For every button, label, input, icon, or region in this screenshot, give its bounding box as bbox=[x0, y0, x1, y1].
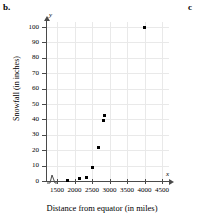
y-tick bbox=[42, 104, 47, 105]
gridline-horizontal bbox=[45, 58, 169, 59]
x-axis-arrow bbox=[169, 179, 174, 185]
y-axis-letter: y bbox=[49, 11, 52, 19]
x-tick bbox=[110, 179, 111, 184]
y-tick-label: 0 bbox=[17, 178, 39, 185]
x-tick bbox=[57, 179, 58, 184]
gridline-vertical bbox=[75, 22, 76, 182]
data-point bbox=[66, 179, 69, 182]
y-tick bbox=[42, 181, 47, 182]
gridline-horizontal bbox=[45, 89, 169, 90]
gridline-horizontal bbox=[45, 166, 169, 167]
gridline-horizontal bbox=[45, 135, 169, 136]
y-tick bbox=[42, 58, 47, 59]
data-point bbox=[103, 114, 106, 117]
y-axis-line bbox=[46, 20, 47, 182]
y-tick bbox=[42, 135, 47, 136]
y-tick bbox=[42, 150, 47, 151]
x-tick bbox=[145, 179, 146, 184]
x-tick bbox=[75, 179, 76, 184]
y-tick bbox=[42, 73, 47, 74]
x-tick bbox=[127, 179, 128, 184]
gridline-horizontal bbox=[45, 73, 169, 74]
y-tick bbox=[42, 166, 47, 167]
x-axis-letter: x bbox=[166, 170, 169, 178]
scatter-plot: 0102030405060708090100 15002000250030003… bbox=[0, 0, 201, 218]
y-tick bbox=[42, 42, 47, 43]
gridline-horizontal bbox=[45, 150, 169, 151]
axis-break-symbol bbox=[47, 174, 61, 184]
x-tick bbox=[92, 179, 93, 184]
y-tick-label: 10 bbox=[17, 162, 39, 169]
y-axis-title: Snowfall (in inches) bbox=[12, 29, 21, 149]
gridline-horizontal bbox=[45, 119, 169, 120]
data-point bbox=[91, 166, 94, 169]
gridline-horizontal bbox=[45, 42, 169, 43]
gridline-vertical bbox=[145, 22, 146, 182]
data-point bbox=[85, 176, 88, 179]
data-point bbox=[143, 26, 146, 29]
x-tick bbox=[162, 179, 163, 184]
data-point bbox=[102, 119, 105, 122]
y-tick bbox=[42, 27, 47, 28]
gridline-vertical bbox=[92, 22, 93, 182]
gridline-vertical bbox=[110, 22, 111, 182]
gridline-vertical bbox=[162, 22, 163, 182]
gridline-horizontal bbox=[45, 104, 169, 105]
data-point bbox=[78, 177, 81, 180]
y-tick bbox=[42, 89, 47, 90]
data-point bbox=[97, 146, 100, 149]
x-axis-title: Distance from equator (in miles) bbox=[22, 203, 182, 213]
x-tick-label: 4500 bbox=[149, 187, 175, 194]
gridline-vertical bbox=[57, 22, 58, 182]
gridline-vertical bbox=[127, 22, 128, 182]
x-axis-line bbox=[44, 181, 172, 182]
gridline-horizontal bbox=[45, 27, 169, 28]
y-tick bbox=[42, 119, 47, 120]
